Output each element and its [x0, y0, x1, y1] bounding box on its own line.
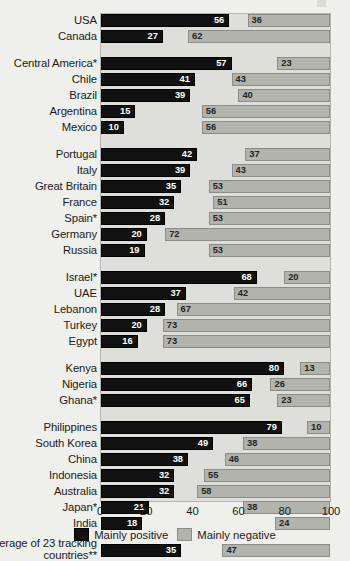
bar-mainly-negative: 43 — [232, 73, 330, 86]
country-label: Lebanon — [0, 303, 97, 316]
bar-mainly-negative: 40 — [238, 89, 330, 102]
bar-value-positive: 57 — [216, 59, 230, 68]
bar-mainly-negative: 20 — [284, 271, 330, 284]
bar-track: 3547 — [101, 544, 330, 557]
bar-value-positive: 49 — [198, 439, 212, 448]
bar-mainly-negative: 23 — [277, 57, 330, 70]
legend-label: Mainly positive — [94, 529, 168, 541]
chart-row: Israel*6820 — [0, 270, 350, 286]
bar-value-negative: 20 — [285, 273, 298, 282]
bar-value-positive: 39 — [175, 91, 189, 100]
legend-swatch-neg — [177, 528, 192, 541]
bar-mainly-positive: 68 — [101, 271, 257, 284]
bar-mainly-negative: 26 — [270, 378, 330, 391]
country-label: Nigeria — [0, 378, 97, 391]
country-label: Japan* — [0, 501, 97, 514]
bar-mainly-positive: 42 — [101, 148, 197, 161]
bar-track: 3258 — [101, 485, 330, 498]
bar-value-negative: 36 — [249, 16, 262, 25]
bar-value-positive: 32 — [159, 471, 173, 480]
bar-value-positive: 15 — [120, 107, 134, 116]
chart-row: Great Britain3553 — [0, 179, 350, 195]
country-label: Brazil — [0, 89, 97, 102]
country-label: Turkey — [0, 319, 97, 332]
chart-row: China3846 — [0, 452, 350, 468]
country-label: Chile — [0, 73, 97, 86]
bar-mainly-negative: 37 — [245, 148, 330, 161]
bar-mainly-positive: 32 — [101, 469, 174, 482]
bar-mainly-negative: 56 — [202, 121, 330, 134]
bar-mainly-positive: 80 — [101, 362, 284, 375]
bar-mainly-positive: 49 — [101, 437, 213, 450]
chart-legend: Mainly positiveMainly negative — [0, 528, 350, 541]
row-spacer — [0, 45, 350, 56]
bar-mainly-negative: 23 — [277, 394, 330, 407]
bar-value-positive: 32 — [159, 198, 173, 207]
bar-track: 6626 — [101, 378, 330, 391]
bar-value-negative: 38 — [244, 439, 257, 448]
bar-mainly-negative: 38 — [243, 437, 330, 450]
bar-mainly-negative: 73 — [163, 319, 330, 332]
bar-track: 3255 — [101, 469, 330, 482]
bar-value-negative: 72 — [166, 230, 179, 239]
axis-tick-label: 40 — [186, 505, 198, 517]
bar-value-negative: 43 — [233, 166, 246, 175]
country-label: France — [0, 196, 97, 209]
bar-value-negative: 53 — [210, 214, 223, 223]
country-label: Israel* — [0, 271, 97, 284]
bar-mainly-positive: 20 — [101, 319, 147, 332]
bar-value-positive: 37 — [170, 289, 184, 298]
bar-mainly-positive: 28 — [101, 212, 165, 225]
bar-value-negative: 43 — [233, 75, 246, 84]
bar-value-negative: 73 — [164, 321, 177, 330]
bar-value-positive: 41 — [180, 75, 194, 84]
bar-value-negative: 47 — [223, 546, 236, 555]
bar-track: 1056 — [101, 121, 330, 134]
chart-row: South Korea4938 — [0, 436, 350, 452]
bar-mainly-negative: 51 — [213, 196, 330, 209]
bar-value-negative: 46 — [226, 455, 239, 464]
axis-tick-label: 100 — [322, 505, 341, 517]
chart-row: Brazil3940 — [0, 88, 350, 104]
bar-value-negative: 23 — [278, 59, 291, 68]
bar-value-negative: 62 — [189, 32, 202, 41]
bar-track: 1556 — [101, 105, 330, 118]
bar-value-negative: 55 — [205, 471, 218, 480]
bar-value-negative: 67 — [178, 305, 191, 314]
bar-track: 2762 — [101, 30, 330, 43]
bar-mainly-positive: 15 — [101, 105, 135, 118]
chart-row: France3251 — [0, 195, 350, 211]
chart-row: Russia1953 — [0, 243, 350, 259]
bar-mainly-negative: 36 — [248, 14, 330, 27]
chart-row: Italy3943 — [0, 163, 350, 179]
axis-tick-label: 20 — [140, 505, 152, 517]
bar-mainly-positive: 37 — [101, 287, 186, 300]
country-label: Portugal — [0, 148, 97, 161]
bar-track: 6820 — [101, 271, 330, 284]
chart-row: Nigeria6626 — [0, 377, 350, 393]
bar-value-positive: 79 — [267, 423, 281, 432]
bar-mainly-negative: 67 — [177, 303, 330, 316]
bar-track: 3742 — [101, 287, 330, 300]
bar-mainly-negative: 56 — [202, 105, 330, 118]
bar-track: 5723 — [101, 57, 330, 70]
country-label: Germany — [0, 228, 97, 241]
legend-item: Mainly negative — [177, 528, 276, 541]
bar-value-negative: 37 — [246, 150, 259, 159]
country-label: Philippines — [0, 421, 97, 434]
bar-track: 3846 — [101, 453, 330, 466]
country-label: Central America* — [0, 57, 97, 70]
chart-row: Central America*5723 — [0, 56, 350, 72]
country-label: Argentina — [0, 105, 97, 118]
country-label: Ghana* — [0, 394, 97, 407]
bar-mainly-negative: 53 — [209, 212, 330, 225]
chart-row: Average of 23 tracking countries**3547 — [0, 543, 350, 559]
bar-value-positive: 16 — [122, 337, 136, 346]
country-label: Spain* — [0, 212, 97, 225]
bar-mainly-negative: 53 — [209, 180, 330, 193]
bar-track: 4237 — [101, 148, 330, 161]
bar-value-positive: 10 — [109, 123, 123, 132]
country-label: Great Britain — [0, 180, 97, 193]
country-label: Italy — [0, 164, 97, 177]
chart-row: Canada2762 — [0, 29, 350, 45]
